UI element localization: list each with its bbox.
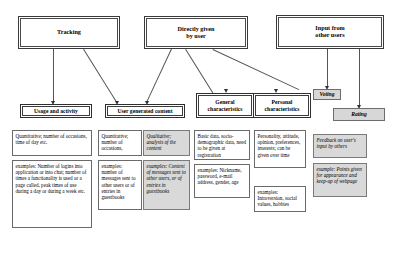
node-general-characteristics[interactable]: General characteristics [196,93,254,118]
leaf-feedback-examples: example: Points given for appearance and… [313,163,367,197]
leaf-feedback-type: Feedback on user's input by others [313,134,367,158]
leaf-ugc-quantitative-type: Quantitative; number of occasions, [98,130,142,156]
connector-tracking-to-ugc [83,49,117,103]
connector-directly-to-personal [213,49,300,90]
node-personal-characteristics-label: Personal characteristics [265,99,300,112]
leaf-personal-examples-text: examples: Introversion, social values, h… [258,189,303,208]
connector-tracking-to-usage [53,49,54,103]
node-personal-characteristics[interactable]: Personal characteristics [253,93,311,118]
leaf-personal-type-text: Personality, attitude, opinion, preferen… [258,133,303,158]
node-usage-activity[interactable]: Usage and activity [20,104,92,118]
leaf-general-examples-text: examples: Nickname, password, e-mail add… [198,167,247,186]
node-tracking-label: Tracking [57,29,81,36]
leaf-general-examples: examples: Nickname, password, e-mail add… [194,164,250,198]
leaf-usage-examples: examples: Number of logins into applicat… [12,160,92,228]
node-rating[interactable]: Rating [333,108,385,121]
leaf-ugc-qualitative-examples: examples: Content of messages sent to ot… [143,160,190,210]
node-input-other-users-label: Input from other users [315,25,344,39]
leaf-usage-examples-text: examples: Number of logins into applicat… [16,163,89,194]
node-user-generated-content[interactable]: User generated content [105,104,185,118]
leaf-ugc-qualitative-type-text: Qualitative; analysis of the content [147,133,187,152]
connector-directly-to-general [185,49,216,97]
leaf-usage-type-text: Quantitative; number of occasions, time … [16,133,89,145]
leaf-personal-examples: examples: Introversion, social values, h… [254,186,306,212]
leaf-feedback-type-text: Feedback on user's input by others [317,137,364,149]
diagram-canvas: Tracking Directly given by user Input fr… [0,0,400,259]
connector-input-to-rating [359,49,360,107]
leaf-general-type: Basic data, socio-demographic data, need… [194,130,250,160]
leaf-ugc-quantitative-type-text: Quantitative; number of occasions, [102,133,139,152]
node-voting[interactable]: Voting [313,89,341,100]
connector-input-to-voting [327,49,328,88]
node-user-generated-content-label: User generated content [117,108,172,114]
node-general-characteristics-label: General characteristics [208,99,243,112]
node-directly-given-label: Directly given by user [178,26,215,40]
leaf-ugc-quantitative-examples: examples: number of messages sent to oth… [98,160,142,210]
leaf-ugc-qualitative-examples-text: examples: Content of messages sent to ot… [147,163,187,194]
leaf-general-type-text: Basic data, socio-demographic data, need… [198,133,247,158]
node-voting-label: Voting [320,91,335,97]
node-input-other-users[interactable]: Input from other users [276,15,384,49]
leaf-ugc-qualitative-type: Qualitative; analysis of the content [143,130,190,156]
leaf-ugc-quantitative-examples-text: examples: number of messages sent to oth… [102,163,139,200]
node-tracking[interactable]: Tracking [18,16,120,49]
node-directly-given[interactable]: Directly given by user [144,16,248,49]
leaf-usage-type: Quantitative; number of occasions, time … [12,130,92,156]
leaf-personal-type: Personality, attitude, opinion, preferen… [254,130,306,168]
node-usage-activity-label: Usage and activity [34,108,78,114]
leaf-feedback-examples-text: example: Points given for appearance and… [317,166,364,185]
node-rating-label: Rating [351,111,367,117]
connector-directly-to-ugc [147,49,172,102]
